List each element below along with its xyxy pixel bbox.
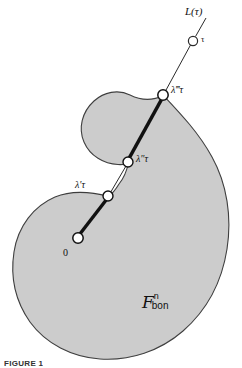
lambda-double-prime-tau-label: λ″τ [136, 154, 148, 164]
region-subscript: bon [152, 301, 169, 311]
ray-label-L: L(τ) [185, 6, 202, 17]
lambda-prime-tau-label-text: λ′τ [75, 179, 85, 190]
ray-label-L-text: L(τ) [185, 5, 202, 17]
tau-endpoint-label: τ [201, 35, 204, 44]
figure-graphic [0, 0, 242, 368]
node-lambda-prime-tau [103, 191, 113, 201]
node-origin [73, 233, 83, 243]
figure-caption: FIGURE 1 [4, 359, 43, 368]
figure-caption-text: FIGURE 1 [4, 359, 43, 368]
node-lambda-double-prime-tau [123, 157, 133, 167]
figure-container: L(τ) τ λ‴τ λ″τ λ′τ 0 Fnbon FIGURE 1 [0, 0, 242, 368]
region-shading-overlay [13, 92, 229, 359]
tau-endpoint-label-text: τ [201, 34, 204, 44]
node-lambda-triple-prime-tau [158, 90, 168, 100]
lambda-triple-prime-tau-label-text: λ‴τ [171, 84, 183, 95]
lambda-prime-tau-label: λ′τ [75, 180, 85, 190]
lambda-double-prime-tau-label-text: λ″τ [136, 153, 148, 164]
origin-label: 0 [63, 248, 68, 258]
node-tau-endpoint [188, 36, 197, 45]
lambda-triple-prime-tau-label: λ‴τ [171, 85, 183, 95]
origin-label-text: 0 [63, 247, 68, 258]
region-label: Fnbon [142, 292, 176, 309]
